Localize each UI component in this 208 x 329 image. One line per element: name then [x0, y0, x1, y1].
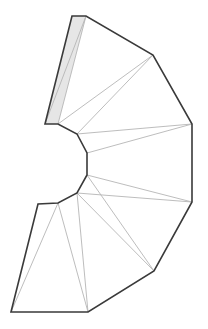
figure-outline — [11, 16, 192, 312]
inner-line — [77, 193, 88, 312]
triangulated-figure — [0, 0, 208, 329]
inner-line — [77, 193, 154, 271]
inner-triangulation-lines — [11, 16, 192, 312]
inner-line — [58, 203, 88, 312]
inner-line — [77, 55, 153, 134]
